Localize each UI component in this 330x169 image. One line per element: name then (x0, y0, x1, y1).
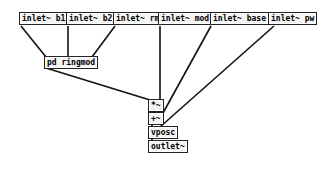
multiply-signal-object[interactable]: *~ (148, 99, 164, 112)
inlet-b2-object[interactable]: inlet~ b2 (66, 12, 115, 25)
inlet-b1-object[interactable]: inlet~ b1 (19, 12, 68, 25)
inlet-base-object[interactable]: inlet~ base (210, 12, 269, 25)
add-signal-object[interactable]: +~ (148, 112, 164, 125)
inlet-pw-object[interactable]: inlet~ pw (268, 12, 317, 25)
vposc-object[interactable]: vposc (148, 126, 178, 139)
inlet-rm-object[interactable]: inlet~ rm (113, 12, 162, 25)
inlet-mod-object[interactable]: inlet~ mod (158, 12, 212, 25)
pd-ringmod-object[interactable]: pd ringmod (44, 56, 98, 69)
outlet-object[interactable]: outlet~ (148, 140, 188, 153)
